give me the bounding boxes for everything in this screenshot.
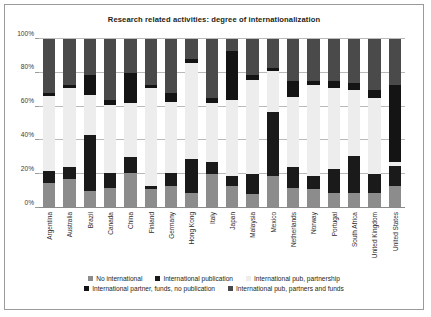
bar-segment[interactable] bbox=[43, 171, 56, 183]
bar-segment[interactable] bbox=[206, 39, 219, 98]
bar-segment[interactable] bbox=[185, 159, 198, 193]
stacked-bar[interactable] bbox=[226, 39, 239, 208]
bar-segment[interactable] bbox=[267, 112, 280, 176]
bar-segment[interactable] bbox=[246, 39, 259, 74]
bar-segment[interactable] bbox=[226, 39, 239, 51]
bar-segment[interactable] bbox=[226, 51, 239, 100]
bar-segment[interactable] bbox=[368, 98, 381, 174]
bar-segment[interactable] bbox=[185, 63, 198, 159]
bar-segment[interactable] bbox=[246, 80, 259, 175]
bar-column[interactable]: Canada bbox=[104, 39, 117, 208]
bar-column[interactable]: United Kingdom bbox=[368, 39, 381, 208]
bar-segment[interactable] bbox=[206, 103, 219, 162]
bar-column[interactable]: Argentina bbox=[43, 39, 56, 208]
bar-segment[interactable] bbox=[328, 39, 341, 81]
stacked-bar[interactable] bbox=[145, 39, 158, 208]
legend-item[interactable]: International pub, partnership bbox=[246, 275, 340, 282]
bar-segment[interactable] bbox=[145, 39, 158, 85]
stacked-bar[interactable] bbox=[348, 39, 361, 208]
bar-segment[interactable] bbox=[145, 189, 158, 208]
bar-segment[interactable] bbox=[287, 188, 300, 208]
bar-column[interactable]: Finland bbox=[145, 39, 158, 208]
stacked-bar[interactable] bbox=[104, 39, 117, 208]
bar-segment[interactable] bbox=[165, 39, 178, 93]
bar-segment[interactable] bbox=[368, 193, 381, 208]
bar-segment[interactable] bbox=[63, 179, 76, 208]
stacked-bar[interactable] bbox=[368, 39, 381, 208]
bar-column[interactable]: United States bbox=[389, 39, 402, 208]
bar-column[interactable]: Germany bbox=[165, 39, 178, 208]
bar-segment[interactable] bbox=[287, 39, 300, 81]
bar-segment[interactable] bbox=[267, 71, 280, 112]
stacked-bar[interactable] bbox=[124, 39, 137, 208]
bar-segment[interactable] bbox=[307, 85, 320, 176]
bar-column[interactable]: China bbox=[124, 39, 137, 208]
bar-segment[interactable] bbox=[104, 173, 117, 188]
bar-segment[interactable] bbox=[348, 83, 361, 90]
bar-segment[interactable] bbox=[165, 173, 178, 187]
bar-column[interactable]: South Africa bbox=[348, 39, 361, 208]
stacked-bar[interactable] bbox=[246, 39, 259, 208]
bar-segment[interactable] bbox=[124, 157, 137, 172]
bar-column[interactable]: Italy bbox=[206, 39, 219, 208]
bar-segment[interactable] bbox=[368, 174, 381, 193]
bar-segment[interactable] bbox=[84, 95, 97, 136]
bar-segment[interactable] bbox=[328, 193, 341, 208]
legend-item[interactable]: International pub, partners and funds bbox=[228, 285, 344, 292]
bar-column[interactable]: Mexico bbox=[267, 39, 280, 208]
bar-segment[interactable] bbox=[84, 75, 97, 95]
bar-segment[interactable] bbox=[124, 103, 137, 157]
bar-segment[interactable] bbox=[226, 176, 239, 186]
bar-segment[interactable] bbox=[63, 39, 76, 85]
legend-item[interactable]: No international bbox=[88, 275, 142, 282]
bar-column[interactable]: Australia bbox=[63, 39, 76, 208]
bar-segment[interactable] bbox=[165, 186, 178, 208]
bar-segment[interactable] bbox=[84, 39, 97, 74]
bar-column[interactable]: Hong Kong bbox=[185, 39, 198, 208]
bar-segment[interactable] bbox=[104, 39, 117, 100]
bar-segment[interactable] bbox=[389, 186, 402, 208]
bar-segment[interactable] bbox=[328, 81, 341, 88]
stacked-bar[interactable] bbox=[185, 39, 198, 208]
stacked-bar[interactable] bbox=[287, 39, 300, 208]
bar-segment[interactable] bbox=[145, 88, 158, 186]
bar-segment[interactable] bbox=[267, 39, 280, 68]
bar-segment[interactable] bbox=[63, 167, 76, 179]
bar-segment[interactable] bbox=[124, 73, 137, 103]
bar-segment[interactable] bbox=[328, 88, 341, 169]
bar-segment[interactable] bbox=[84, 191, 97, 208]
stacked-bar[interactable] bbox=[43, 39, 56, 208]
legend-item[interactable]: International publication bbox=[155, 275, 233, 282]
bar-segment[interactable] bbox=[104, 188, 117, 208]
bar-column[interactable]: Portugal bbox=[328, 39, 341, 208]
bar-segment[interactable] bbox=[165, 102, 178, 173]
stacked-bar[interactable] bbox=[328, 39, 341, 208]
stacked-bar[interactable] bbox=[307, 39, 320, 208]
bar-column[interactable]: Japan bbox=[226, 39, 239, 208]
bar-segment[interactable] bbox=[267, 176, 280, 208]
bar-segment[interactable] bbox=[348, 90, 361, 156]
stacked-bar[interactable] bbox=[165, 39, 178, 208]
bar-segment[interactable] bbox=[43, 96, 56, 170]
bar-segment[interactable] bbox=[348, 39, 361, 83]
bar-segment[interactable] bbox=[104, 105, 117, 173]
bar-segment[interactable] bbox=[287, 167, 300, 187]
stacked-bar[interactable] bbox=[84, 39, 97, 208]
bar-column[interactable]: Norway bbox=[307, 39, 320, 208]
bar-segment[interactable] bbox=[307, 176, 320, 190]
bar-segment[interactable] bbox=[206, 174, 219, 208]
bar-segment[interactable] bbox=[206, 162, 219, 174]
bar-segment[interactable] bbox=[43, 183, 56, 208]
bar-segment[interactable] bbox=[307, 39, 320, 81]
legend-item[interactable]: International partner, funds, no publica… bbox=[84, 285, 215, 292]
bar-column[interactable]: Malaysia bbox=[246, 39, 259, 208]
bar-segment[interactable] bbox=[348, 193, 361, 208]
bar-segment[interactable] bbox=[63, 88, 76, 167]
bar-segment[interactable] bbox=[124, 173, 137, 208]
bar-segment[interactable] bbox=[287, 81, 300, 96]
bar-column[interactable]: Netherlands bbox=[287, 39, 300, 208]
bar-segment[interactable] bbox=[185, 39, 198, 59]
bar-segment[interactable] bbox=[226, 186, 239, 208]
stacked-bar[interactable] bbox=[389, 39, 402, 208]
bar-segment[interactable] bbox=[368, 90, 381, 98]
